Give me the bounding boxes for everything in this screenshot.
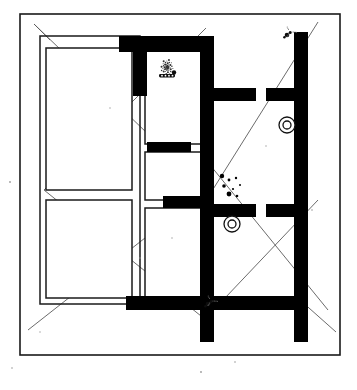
find-3	[235, 177, 237, 179]
wall-spur-left-mid	[214, 204, 256, 217]
hearth-stipple	[170, 68, 172, 70]
hearth-stipple	[163, 63, 164, 64]
room-west-upper	[46, 48, 132, 190]
speckle-9	[39, 331, 40, 332]
speckle-6	[171, 237, 172, 238]
mark-bottom-center-spray	[217, 301, 218, 302]
hearth-stipple	[168, 66, 170, 68]
hearth-base-dot-1	[165, 75, 167, 77]
mark-top-right-blot-b	[289, 31, 292, 34]
room-center-lower	[145, 208, 202, 298]
mark-bottom-center-spray	[208, 305, 209, 306]
find-6	[239, 184, 241, 186]
hearth-base-dot-0	[161, 75, 163, 77]
find-8	[236, 195, 239, 198]
wall-bottom-span	[126, 296, 214, 310]
hearth-stipple	[168, 64, 169, 65]
speckle-7	[265, 145, 266, 146]
find-4	[222, 184, 226, 188]
column-base-center-inner	[228, 220, 236, 228]
wall-spur-right-mid	[266, 204, 294, 217]
hearth-knob	[172, 70, 176, 74]
hearth-stipple	[167, 71, 169, 73]
mark-top-right-spray	[287, 36, 288, 37]
hearth-stipple	[166, 64, 167, 65]
speckle-2	[200, 371, 202, 373]
hearth-stipple	[165, 62, 167, 64]
mark-bottom-center-spray	[209, 298, 210, 299]
mark-top-right-blot-c	[283, 36, 285, 38]
hearth-stipple	[169, 62, 171, 64]
speckle-3	[234, 361, 236, 363]
room-center-upper	[145, 50, 202, 144]
speckle-5	[139, 257, 140, 258]
mark-bottom-center-spray	[208, 297, 209, 298]
hearth-stipple	[165, 71, 166, 72]
wall-bottom-span-right	[214, 296, 308, 310]
hearth-stipple	[163, 65, 165, 67]
hearth-stipple	[169, 64, 171, 66]
find-2	[228, 179, 231, 182]
mark-top-right-spray	[294, 32, 295, 33]
mark-bottom-center-spray	[208, 304, 209, 305]
hearth-stipple	[162, 68, 163, 69]
speckle-4	[109, 107, 110, 108]
mark-bottom-center-spray	[214, 301, 215, 302]
column-base-east-inner	[283, 121, 291, 129]
hearth-stipple	[168, 70, 169, 71]
wall-stub-bottom-center	[200, 310, 214, 342]
hearth-stipple	[166, 60, 167, 61]
speckle-8	[311, 209, 313, 211]
wall-spur-right-upper	[266, 88, 294, 101]
speckle-1	[11, 367, 13, 369]
mark-bottom-center-spray	[212, 300, 213, 301]
plan-canvas	[0, 0, 357, 390]
hearth-stipple	[163, 70, 165, 72]
speckle-0	[9, 181, 11, 183]
mark-top-right-spray	[291, 31, 292, 32]
mark-bottom-center-spray	[209, 303, 210, 304]
mark-top-right-spray	[287, 26, 288, 27]
hearth-stipple	[161, 66, 163, 68]
wall-stub-bottom-right	[294, 310, 308, 342]
wall-top-black-span	[119, 36, 209, 52]
wall-mid-vertical-upper	[200, 36, 214, 160]
floor-plan-drawing: Building floor plan solid masonry wall o…	[0, 0, 357, 390]
outlined-walls-group	[40, 36, 202, 304]
hearth-stipple	[170, 71, 172, 73]
hearth-stipple	[161, 70, 163, 72]
wall-mid-vertical-lower	[200, 160, 214, 310]
hearth-stipple	[170, 67, 171, 68]
hearth-stipple	[171, 66, 173, 68]
wall-notch-upper-left	[133, 52, 147, 96]
hearth-stipple	[168, 68, 170, 70]
hearth-stipple	[163, 60, 165, 62]
wall-spur-left-upper	[214, 88, 256, 101]
wall-notch-mid-left	[147, 142, 191, 152]
hearth-stipple	[164, 63, 166, 65]
hearth-base-dot-2	[168, 75, 170, 77]
find-5	[232, 188, 234, 190]
hearth-stipple	[164, 68, 166, 70]
find-1	[220, 174, 224, 178]
mark-top-right-spray	[287, 28, 288, 29]
mark-bottom-center-blot-b	[210, 300, 213, 303]
wall-right-vertical	[294, 32, 308, 314]
mark-bottom-center-blot-c	[204, 305, 206, 307]
mark-top-right-spray	[288, 29, 289, 30]
mark-bottom-center-spray	[215, 301, 216, 302]
room-west-lower	[46, 200, 132, 298]
mark-top-right-spray	[293, 32, 294, 33]
hearth-stipple	[167, 62, 169, 64]
mark-top-right-spray	[287, 35, 288, 36]
mark-bottom-center-spray	[208, 295, 209, 296]
mark-top-right-spray	[288, 34, 289, 35]
wall-notch-mid-left-2	[163, 196, 207, 208]
mark-top-right-spray	[296, 32, 297, 33]
find-7	[227, 192, 232, 197]
hearth-stipple	[167, 65, 169, 67]
hearth-base-dot-3	[172, 75, 174, 77]
hearth-stipple	[171, 62, 172, 63]
hearth-stipple	[166, 69, 168, 71]
hearth-stipple	[168, 59, 170, 61]
